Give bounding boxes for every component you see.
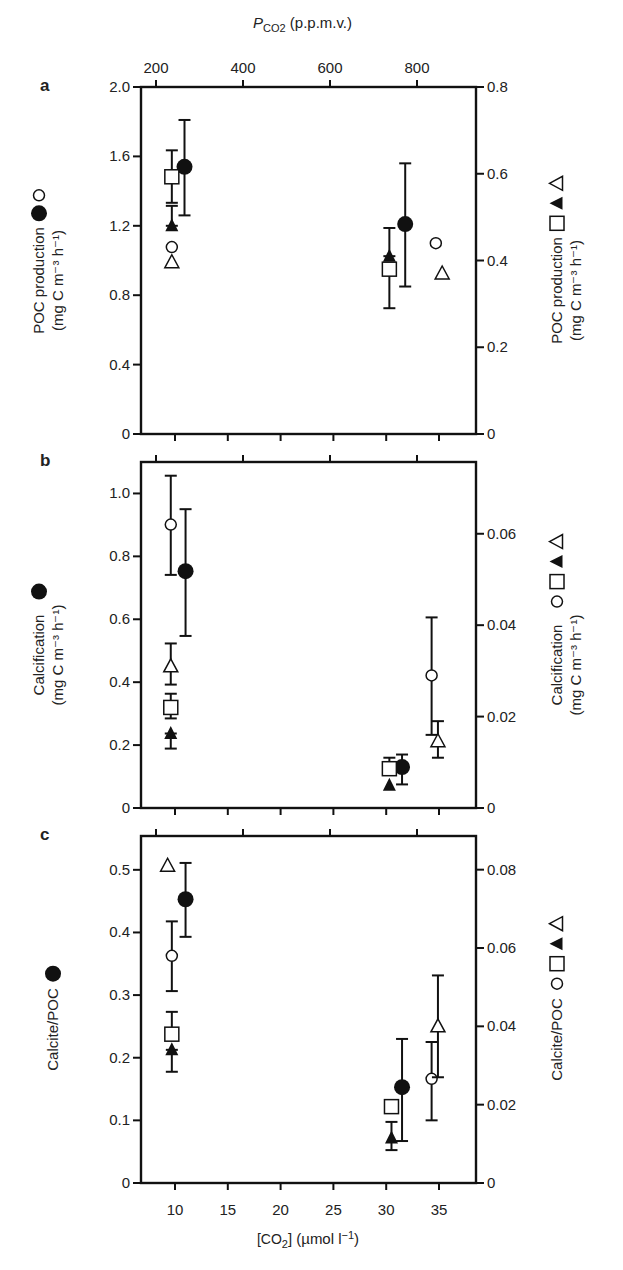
open-triangle-marker [550,917,563,931]
y-tick-label-right: 0 [487,425,495,442]
open-circle-marker [552,978,563,989]
plot-frame [141,836,476,1183]
open-triangle-marker [550,176,563,190]
y-tick-label-right: 0.06 [487,939,516,956]
figure: PCO2 (p.p.m.v.)200400600800101520253035[… [0,0,623,1270]
top-axis-tick-label: 800 [404,59,429,76]
y-tick-label-left: 1.2 [109,217,130,234]
filled-triangle-marker [550,937,563,950]
open-circle-marker [552,596,563,607]
open-square-marker [382,262,396,276]
open-circle-marker [426,1073,437,1084]
y-tick-label-right: 0.08 [487,861,516,878]
panel-letter: c [40,825,49,844]
open-square-marker [550,216,564,230]
bottom-axis-tick-label: 30 [378,1201,395,1218]
series-filled-circle [178,863,410,1141]
right-axis-label-line: (mg C m⁻³ h⁻¹) [567,240,584,341]
right-axis-label-line: Calcification [548,625,565,706]
open-triangle-marker [165,255,179,268]
y-tick-label-left: 0.2 [109,1049,130,1066]
filled-circle-marker [178,563,194,579]
filled-circle-marker [178,891,194,907]
open-triangle-marker [164,659,178,672]
panel-a: 00.40.81.21.62.000.20.40.60.8aPOC produc… [30,76,584,442]
open-square-marker [384,1100,398,1114]
y-tick-label-left: 0.4 [109,923,130,940]
open-triangle-marker [431,1019,445,1032]
y-tick-label-left: 0.2 [109,736,130,753]
left-axis-label-line: (mg C m⁻³ h⁻¹) [49,230,66,331]
bottom-axis-title: [CO2] (µmol l−1) [257,1229,359,1250]
y-tick-label-left: 1.0 [109,484,130,501]
series-open-triangle [164,643,445,757]
series-filled-triangle [164,726,396,791]
top-axis-tick-label: 600 [317,59,342,76]
open-square-marker [165,1027,179,1041]
left-axis-label: POC production(mg C m⁻³ h⁻¹) [30,190,66,334]
right-axis-label-line: (mg C m⁻³ h⁻¹) [567,615,584,716]
y-tick-label-right: 0.06 [487,525,516,542]
filled-circle-marker [394,1079,410,1095]
open-circle-marker [430,238,441,249]
filled-circle-marker [31,584,47,600]
open-triangle-marker [550,535,563,549]
left-axis-label: Calcification(mg C m⁻³ h⁻¹) [30,584,66,706]
y-tick-label-left: 0 [122,799,130,816]
filled-circle-marker [45,966,61,982]
bottom-axis-tick-label: 25 [325,1201,342,1218]
y-tick-label-right: 0.8 [487,78,508,95]
right-axis-label-line: POC production [548,237,565,344]
series-filled-triangle [165,1042,398,1150]
plot-frame [141,87,476,434]
filled-triangle-marker [550,197,563,210]
y-tick-label-right: 0.04 [487,616,516,633]
right-axis-label: Calcite/POC [548,917,565,1081]
y-tick-label-right: 0.02 [487,708,516,725]
left-axis-label-line: Calcification [30,615,47,696]
y-tick-label-left: 0.5 [109,861,130,878]
open-square-marker [382,762,396,776]
open-circle-marker [165,519,176,530]
series-open-circle [165,476,438,735]
series-open-square [165,1012,399,1114]
panel-letter: a [40,76,50,95]
y-tick-label-left: 0.4 [109,356,130,373]
bottom-axis-tick-label: 35 [431,1201,448,1218]
y-tick-label-right: 0 [487,799,495,816]
open-triangle-marker [435,266,449,279]
open-square-marker [550,957,564,971]
left-axis-label-line: POC production [30,227,47,334]
series-filled-circle [177,120,414,287]
left-axis-label-line: (mg C m⁻³ h⁻¹) [49,605,66,706]
filled-circle-marker [397,216,413,232]
y-tick-label-right: 0.2 [487,338,508,355]
y-tick-label-left: 0.8 [109,286,130,303]
top-axis-tick-label: 200 [143,59,168,76]
y-tick-label-right: 0 [487,1174,495,1191]
panel-letter: b [40,451,50,470]
bottom-axis-tick-label: 20 [272,1201,289,1218]
chart-svg: PCO2 (p.p.m.v.)200400600800101520253035[… [0,0,623,1270]
panel-c: 00.10.20.30.40.500.020.040.060.08cCalcit… [40,825,565,1191]
filled-circle-marker [31,205,47,221]
open-circle-marker [166,950,177,961]
series-open-square [164,694,397,776]
open-square-marker [165,170,179,184]
y-tick-label-left: 0.4 [109,673,130,690]
series-open-square [165,150,397,308]
top-axis-title: PCO2 (p.p.m.v.) [253,14,352,34]
left-axis-label-line: Calcite/POC [44,988,61,1071]
right-axis-label: POC production(mg C m⁻³ h⁻¹) [548,176,584,344]
y-tick-label-left: 0.1 [109,1111,130,1128]
y-tick-label-right: 0.4 [487,252,508,269]
y-tick-label-left: 0.3 [109,986,130,1003]
bottom-axis-tick-label: 10 [167,1201,184,1218]
series-filled-triangle [165,206,396,262]
y-tick-label-left: 0.6 [109,610,130,627]
open-triangle-marker [161,858,175,871]
left-axis-label: Calcite/POC [44,966,61,1071]
y-tick-label-left: 2.0 [109,78,130,95]
bottom-axis-tick-label: 15 [219,1201,236,1218]
y-tick-label-right: 0.02 [487,1096,516,1113]
